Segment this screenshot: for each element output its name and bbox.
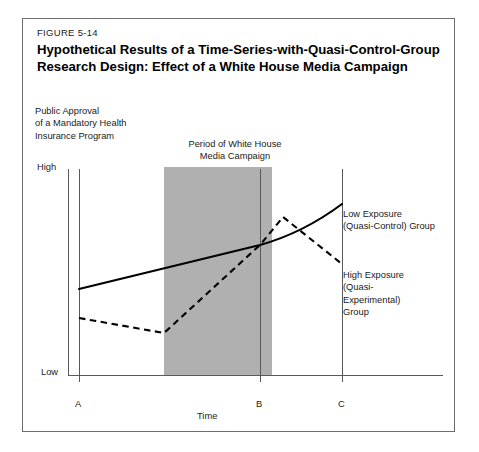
chart-plot-area: Public Approval of a Mandatory Health In… [23,19,456,433]
figure-frame: FIGURE 5-14 Hypothetical Results of a Ti… [22,18,455,432]
shaded-period-band [164,167,272,376]
chart-svg [23,19,456,433]
